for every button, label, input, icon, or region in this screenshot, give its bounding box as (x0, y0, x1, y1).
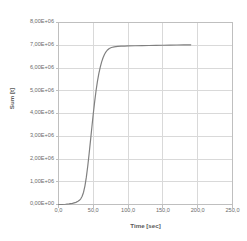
x-tick-label: 150,0 (148, 208, 178, 214)
x-axis-title: Time [sec] (58, 222, 233, 229)
x-tick-label: 250,0 (218, 208, 247, 214)
x-tick-label: 0,0 (44, 208, 74, 214)
y-axis-title: Sum [t] (8, 69, 15, 129)
x-tick-label: 100,0 (113, 208, 143, 214)
chart-container: 0,00E+001,00E+062,00E+063,00E+064,00E+06… (0, 0, 246, 241)
x-axis-tick-labels: 0,050,0100,0150,0200,0250,0 (0, 0, 246, 241)
x-tick-label: 50,0 (78, 208, 108, 214)
x-tick-label: 200,0 (183, 208, 213, 214)
